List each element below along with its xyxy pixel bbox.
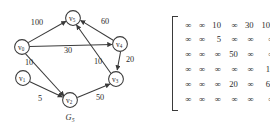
matrix-cell: ∞ bbox=[255, 48, 270, 63]
weight-v0-v5: 100 bbox=[31, 18, 43, 27]
matrix-cell: ∞ bbox=[179, 62, 193, 77]
matrix-cell: ∞ bbox=[193, 48, 207, 63]
cost-matrix-panel: ∞ ∞ 10 ∞ 30 100 ∞ ∞ 5 ∞ ∞ ∞ bbox=[172, 16, 268, 114]
matrix-cell: ∞ bbox=[255, 33, 270, 48]
matrix-cell: ∞ bbox=[193, 92, 207, 107]
matrix-cell: ∞ bbox=[239, 48, 255, 63]
matrix-row: ∞ ∞ 5 ∞ ∞ ∞ bbox=[179, 33, 270, 48]
matrix-bracket-wrapper: ∞ ∞ 10 ∞ 30 100 ∞ ∞ 5 ∞ ∞ ∞ bbox=[172, 16, 270, 109]
weight-v1-v2: 5 bbox=[38, 94, 42, 103]
matrix-cell: ∞ bbox=[207, 77, 223, 92]
graph-node-v5[interactable]: v5 bbox=[66, 11, 81, 26]
matrix-cell: 5 bbox=[207, 33, 223, 48]
matrix-cell: ∞ bbox=[193, 18, 207, 33]
matrix-cell: 60 bbox=[255, 77, 270, 92]
matrix-cell: ∞ bbox=[207, 48, 223, 63]
edge-v4-v3 bbox=[117, 52, 120, 71]
graph-panel: 100 30 10 5 50 10 60 20 v0 v1 bbox=[0, 0, 140, 128]
weight-v3-v5: 10 bbox=[94, 57, 102, 66]
matrix-cell: ∞ bbox=[207, 62, 223, 77]
matrix-cell: ∞ bbox=[179, 33, 193, 48]
matrix-cell: 20 bbox=[222, 77, 239, 92]
matrix-cell: ∞ bbox=[179, 92, 193, 107]
figure-graph-and-cost-matrix: 100 30 10 5 50 10 60 20 v0 v1 bbox=[0, 0, 270, 128]
matrix-cell: 10 bbox=[255, 62, 270, 77]
matrix-cell: ∞ bbox=[193, 77, 207, 92]
weight-v0-v4: 30 bbox=[64, 46, 72, 55]
matrix-row: ∞ ∞ ∞ 20 ∞ 60 bbox=[179, 77, 270, 92]
matrix-cell: ∞ bbox=[193, 62, 207, 77]
matrix-cell: 30 bbox=[239, 18, 255, 33]
weight-v4-v5: 60 bbox=[101, 17, 109, 26]
matrix-row: ∞ ∞ ∞ 50 ∞ ∞ bbox=[179, 48, 270, 63]
weight-v2-v3: 50 bbox=[96, 93, 104, 102]
matrix-cell: 50 bbox=[222, 48, 239, 63]
matrix-left-bracket bbox=[172, 16, 178, 111]
matrix-row: ∞ ∞ ∞ ∞ ∞ 10 bbox=[179, 62, 270, 77]
matrix-cell: ∞ bbox=[239, 62, 255, 77]
matrix-cell: ∞ bbox=[207, 92, 223, 107]
matrix-cell: ∞ bbox=[179, 18, 193, 33]
matrix-cell: ∞ bbox=[239, 33, 255, 48]
graph-node-v2[interactable]: v2 bbox=[63, 93, 78, 108]
cost-matrix-table: ∞ ∞ 10 ∞ 30 100 ∞ ∞ 5 ∞ ∞ ∞ bbox=[179, 18, 270, 107]
graph-node-v3[interactable]: v3 bbox=[109, 72, 124, 87]
matrix-cell: ∞ bbox=[222, 18, 239, 33]
graph-caption: G5 bbox=[66, 113, 75, 123]
edge-layer bbox=[26, 20, 121, 97]
matrix-cell: ∞ bbox=[222, 33, 239, 48]
weight-v4-v3: 20 bbox=[126, 55, 134, 64]
matrix-cell: ∞ bbox=[222, 92, 239, 107]
matrix-cell: ∞ bbox=[255, 92, 270, 107]
edge-v2-v3 bbox=[77, 84, 110, 97]
weight-v0-v2: 10 bbox=[25, 58, 33, 67]
graph-node-v0[interactable]: v0 bbox=[15, 40, 30, 55]
matrix-cell: ∞ bbox=[239, 92, 255, 107]
matrix-row: ∞ ∞ ∞ ∞ ∞ ∞ bbox=[179, 92, 270, 107]
matrix-cell: ∞ bbox=[179, 77, 193, 92]
matrix-row: ∞ ∞ 10 ∞ 30 100 bbox=[179, 18, 270, 33]
graph-node-v4[interactable]: v4 bbox=[113, 37, 128, 52]
matrix-cell: ∞ bbox=[222, 62, 239, 77]
graph-node-v1[interactable]: v1 bbox=[16, 71, 31, 86]
matrix-cell: 10 bbox=[207, 18, 223, 33]
edge-v3-v5 bbox=[77, 25, 112, 74]
graph-drawing: 100 30 10 5 50 10 60 20 v0 v1 bbox=[0, 0, 140, 128]
matrix-cell: ∞ bbox=[193, 33, 207, 48]
matrix-cell: 100 bbox=[255, 18, 270, 33]
matrix-cell: ∞ bbox=[179, 48, 193, 63]
matrix-cell: ∞ bbox=[239, 77, 255, 92]
